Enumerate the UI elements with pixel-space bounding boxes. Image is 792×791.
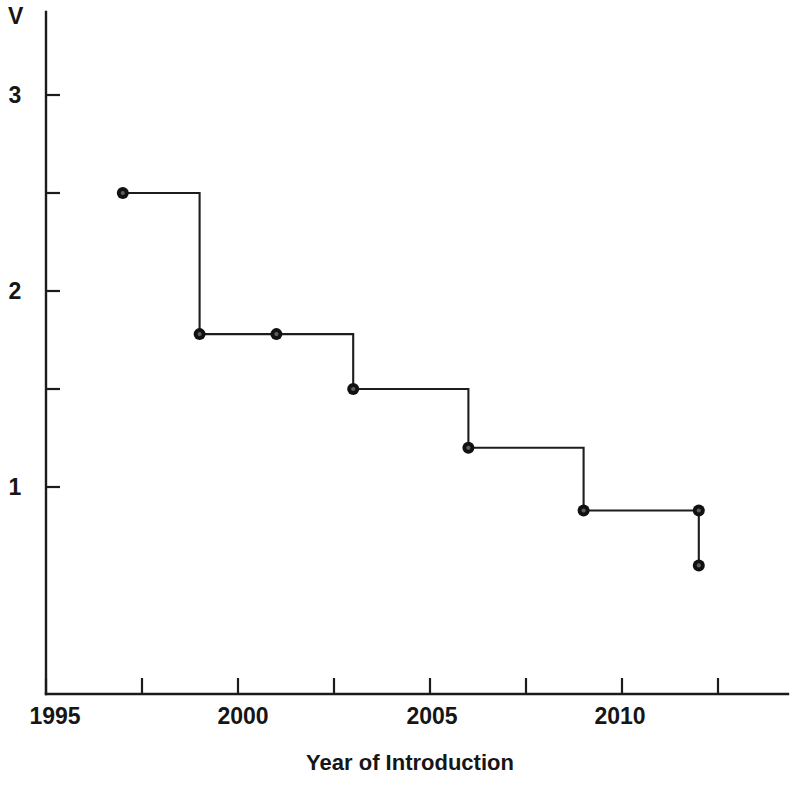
data-point-marker xyxy=(117,187,129,199)
data-point-marker xyxy=(347,383,359,395)
marker-inner-dot xyxy=(466,446,470,450)
x-tick-label-2000: 2000 xyxy=(217,703,268,729)
y-tick-label-2: 2 xyxy=(9,278,22,304)
x-tick-label-2005: 2005 xyxy=(406,703,457,729)
chart-figure: V 3 2 1 19 xyxy=(0,0,792,791)
y-tick-label-3: 3 xyxy=(9,82,22,108)
data-point-marker xyxy=(462,442,474,454)
marker-inner-dot xyxy=(274,332,278,336)
marker-inner-dot xyxy=(697,563,701,567)
step-chart: V 3 2 1 19 xyxy=(0,0,792,791)
data-point-marker xyxy=(578,505,590,517)
x-tick-label-2010: 2010 xyxy=(594,703,645,729)
x-tick-label-1995: 1995 xyxy=(29,703,80,729)
marker-inner-dot xyxy=(697,508,701,512)
data-series-step xyxy=(117,187,705,571)
x-tick-labels: 1995 2000 2005 2010 xyxy=(29,703,645,729)
marker-inner-dot xyxy=(351,387,355,391)
x-axis-title: Year of Introduction xyxy=(306,750,514,775)
step-line xyxy=(123,193,699,565)
x-tick-marks xyxy=(46,678,718,694)
y-tick-marks xyxy=(46,95,60,487)
data-point-marker xyxy=(194,328,206,340)
y-tick-labels: 3 2 1 xyxy=(9,82,22,500)
y-tick-label-1: 1 xyxy=(9,474,22,500)
marker-inner-dot xyxy=(198,332,202,336)
data-point-marker xyxy=(270,328,282,340)
marker-inner-dot xyxy=(121,191,125,195)
y-axis-label: V xyxy=(8,3,24,29)
data-point-marker xyxy=(693,505,705,517)
data-point-marker xyxy=(693,559,705,571)
marker-inner-dot xyxy=(582,508,586,512)
